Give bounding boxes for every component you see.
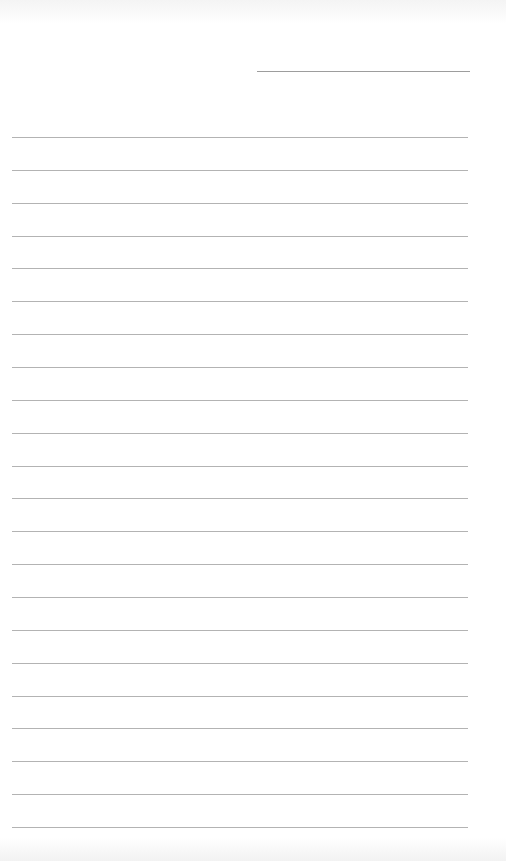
ruled-line [12,400,468,401]
ruled-line [12,696,468,697]
ruled-line [12,301,468,302]
ruled-line [12,597,468,598]
ruled-line [12,630,468,631]
ruled-line [12,268,468,269]
ruled-line [12,663,468,664]
ruled-line [12,827,468,828]
ruled-line [12,531,468,532]
ruled-line [12,137,468,138]
ruled-line [12,498,468,499]
ruled-line [12,367,468,368]
ruled-line [12,433,468,434]
ruled-line [12,466,468,467]
ruled-line [12,203,468,204]
ruled-line [12,334,468,335]
ruled-line [12,236,468,237]
ruled-line [12,761,468,762]
header-rule-line [257,71,470,72]
ruled-line [12,170,468,171]
lined-paper-page [0,0,506,861]
ruled-line [12,564,468,565]
ruled-line [12,728,468,729]
ruled-line [12,794,468,795]
